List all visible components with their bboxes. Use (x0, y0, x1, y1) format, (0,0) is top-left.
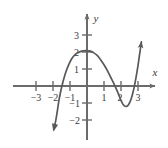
y-tick-label--2: −2 (69, 115, 80, 126)
y-tick-label--1: −1 (69, 98, 80, 109)
graph-figure: −3 −2 −1 1 2 3 x 3 2 1 −1 (0, 0, 168, 148)
y-axis-tick-labels: 3 2 1 −1 −2 (69, 30, 80, 126)
x-tick-label--3: −3 (31, 92, 42, 103)
y-tick-label-3: 3 (74, 30, 79, 41)
x-tick-label-1: 1 (102, 92, 107, 103)
y-axis: 3 2 1 −1 −2 y (69, 12, 98, 140)
curve-arrow-down-left (52, 123, 58, 131)
y-axis-label: y (93, 12, 99, 24)
y-tick-label-1: 1 (74, 64, 79, 75)
x-axis-tick-labels: −3 −2 −1 1 2 3 (31, 92, 141, 103)
x-axis-label: x (152, 66, 158, 78)
x-tick-label-3: 3 (136, 92, 141, 103)
coordinate-plane-svg: −3 −2 −1 1 2 3 x 3 2 1 −1 (0, 0, 168, 148)
x-tick-label--2: −2 (48, 92, 59, 103)
x-axis: −3 −2 −1 1 2 3 x (13, 66, 158, 103)
